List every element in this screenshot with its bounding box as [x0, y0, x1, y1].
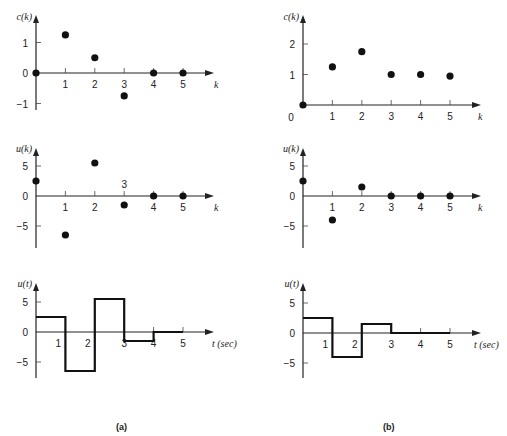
- x-tick-label: 4: [418, 202, 424, 213]
- x-tick-label: 1: [63, 79, 69, 90]
- x-axis-arrow-icon: [472, 102, 481, 108]
- x-axis-arrow-icon: [205, 70, 214, 76]
- x-axis-label: k: [478, 202, 483, 213]
- x-tick-label: 4: [151, 79, 157, 90]
- x-axis-label: k: [214, 202, 219, 213]
- x-tick-label: 3: [388, 339, 394, 350]
- step-series-line: [36, 299, 183, 371]
- y-tick-label: 1: [289, 70, 295, 81]
- y-tick-label: 5: [289, 161, 295, 172]
- y-axis-arrow-icon: [33, 148, 39, 156]
- data-point: [121, 201, 128, 208]
- data-point: [32, 177, 39, 184]
- data-point: [150, 69, 157, 76]
- y-axis-label: u(k): [283, 143, 300, 155]
- y-tick-label: 5: [22, 161, 28, 172]
- x-tick-label: 2: [92, 79, 98, 90]
- data-point: [179, 69, 186, 76]
- data-point: [62, 31, 69, 38]
- x-axis-label: t (sec): [474, 339, 499, 351]
- x-tick-label: 1: [323, 339, 329, 350]
- caption-b: (b): [383, 422, 395, 432]
- x-tick-label: 4: [151, 202, 157, 213]
- x-tick-label: 5: [447, 202, 453, 213]
- data-point: [32, 69, 39, 76]
- x-axis-label: k: [214, 79, 219, 90]
- y-axis-label: c(k): [16, 11, 32, 23]
- data-point: [91, 159, 98, 166]
- y-tick-label: 5: [289, 298, 295, 309]
- x-tick-label: 2: [85, 338, 91, 349]
- data-point: [179, 192, 186, 199]
- y-tick-label: −5: [284, 358, 296, 369]
- y-axis-arrow-icon: [300, 283, 306, 291]
- y-axis-label: c(k): [283, 11, 299, 23]
- x-axis-arrow-icon: [205, 329, 214, 335]
- x-tick-label: 4: [418, 339, 424, 350]
- y-axis-arrow-icon: [300, 15, 306, 23]
- x-axis-label: t (sec): [212, 338, 237, 350]
- x-tick-label: 2: [352, 339, 358, 350]
- y-tick-label: 2: [289, 39, 295, 50]
- y-tick-label: −1: [17, 99, 29, 110]
- x-tick-label: 5: [447, 339, 453, 350]
- data-point: [446, 192, 453, 199]
- x-tick-label: 3: [388, 111, 394, 122]
- chart-a-ut: −50512345u(t)t (sec): [17, 278, 238, 378]
- data-point: [121, 92, 128, 99]
- y-tick-label: −5: [17, 221, 29, 232]
- x-tick-label: 5: [180, 338, 186, 349]
- figure-canvas: −10112345c(k)k−50512345u(k)k−50512345u(t…: [0, 0, 507, 436]
- y-tick-label: 0: [22, 68, 28, 79]
- data-point: [417, 71, 424, 78]
- data-point: [329, 216, 336, 223]
- data-point: [299, 101, 306, 108]
- x-tick-label: 5: [447, 111, 453, 122]
- x-tick-label: 1: [330, 202, 336, 213]
- plots-group: −10112345c(k)k−50512345u(k)k−50512345u(t…: [16, 11, 499, 378]
- x-axis-arrow-icon: [472, 330, 481, 336]
- x-axis-label: k: [478, 111, 483, 122]
- x-axis-arrow-icon: [205, 193, 214, 199]
- x-tick-label: 2: [92, 202, 98, 213]
- y-axis-arrow-icon: [300, 148, 306, 156]
- y-tick-label: 0: [22, 191, 28, 202]
- chart-b-ck: 01212345c(k)k: [283, 11, 483, 123]
- data-point: [388, 71, 395, 78]
- x-tick-label: 1: [56, 338, 62, 349]
- data-point: [358, 183, 365, 190]
- chart-a-ck: −10112345c(k)k: [16, 11, 219, 110]
- x-tick-label: 5: [180, 202, 186, 213]
- y-tick-label: 0: [289, 328, 295, 339]
- x-tick-label: 3: [388, 202, 394, 213]
- y-tick-label: 0: [288, 112, 294, 123]
- x-tick-label: 5: [180, 79, 186, 90]
- data-point: [358, 48, 365, 55]
- chart-b-ut: −50512345u(t)t (sec): [284, 278, 500, 378]
- data-point: [388, 192, 395, 199]
- y-axis-label: u(t): [18, 278, 33, 290]
- x-tick-label: 1: [63, 202, 69, 213]
- data-point: [299, 177, 306, 184]
- caption-a: (a): [116, 422, 127, 432]
- x-tick-label: 2: [359, 111, 365, 122]
- step-series-line: [303, 318, 450, 357]
- data-point: [62, 231, 69, 238]
- data-point: [91, 54, 98, 61]
- x-tick-label: 3: [121, 179, 127, 190]
- y-tick-label: 0: [22, 327, 28, 338]
- data-point: [446, 72, 453, 79]
- x-tick-label: 1: [330, 111, 336, 122]
- chart-b-uk: −50512345u(k)k: [283, 143, 483, 248]
- data-point: [150, 192, 157, 199]
- data-point: [417, 192, 424, 199]
- y-axis-arrow-icon: [33, 15, 39, 23]
- x-axis-arrow-icon: [472, 193, 481, 199]
- data-point: [329, 63, 336, 70]
- y-axis-arrow-icon: [33, 283, 39, 291]
- x-tick-label: 2: [359, 202, 365, 213]
- y-tick-label: −5: [17, 357, 29, 368]
- y-tick-label: 1: [22, 38, 28, 49]
- y-axis-label: u(k): [16, 143, 33, 155]
- x-tick-label: 4: [418, 111, 424, 122]
